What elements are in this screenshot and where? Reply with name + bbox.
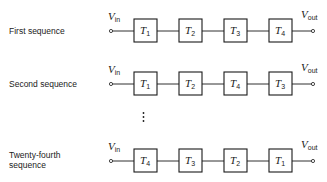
block-t2: T2 <box>179 19 202 42</box>
output-terminal <box>311 29 314 32</box>
vout-label: Vout <box>301 8 318 21</box>
vin-label: Vin <box>108 10 120 23</box>
vin-label: Vin <box>108 140 120 153</box>
vout-label: Vout <box>301 138 318 151</box>
input-terminal <box>109 82 112 85</box>
output-terminal <box>311 82 314 85</box>
block-t3: T3 <box>269 72 292 95</box>
sequence-row-24: Vin Vout T4 T3 T2 T1 <box>108 138 318 172</box>
vout-label: Vout <box>301 61 318 74</box>
input-terminal <box>109 159 112 162</box>
block-t1: T1 <box>269 149 292 172</box>
block-t4: T4 <box>224 72 247 95</box>
block-t3: T3 <box>224 19 247 42</box>
block-diagram: Vin Vout T1 T2 T3 T4 Vin Vout T1 <box>0 0 327 182</box>
block-t1: T1 <box>134 72 157 95</box>
block-t1: T1 <box>134 19 157 42</box>
block-t3: T3 <box>179 149 202 172</box>
sequence-row-2: Vin Vout T1 T2 T4 T3 <box>108 61 318 95</box>
block-t4: T4 <box>134 149 157 172</box>
vertical-ellipsis <box>143 112 145 122</box>
block-t2: T2 <box>179 72 202 95</box>
block-t4: T4 <box>269 19 292 42</box>
input-terminal <box>109 29 112 32</box>
sequence-row-1: Vin Vout T1 T2 T3 T4 <box>108 8 318 42</box>
vin-label: Vin <box>108 63 120 76</box>
block-t2: T2 <box>224 149 247 172</box>
output-terminal <box>311 159 314 162</box>
